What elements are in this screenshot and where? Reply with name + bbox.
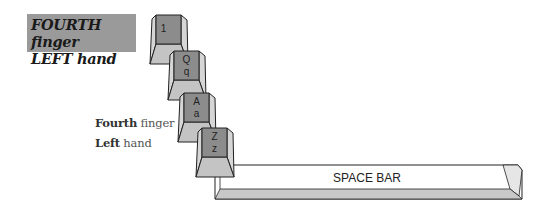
key-label: 1 [161, 23, 167, 34]
space-bar: SPACE BAR [215, 165, 522, 199]
key-lower-label: q [184, 66, 190, 77]
key-upper-label: Q [183, 54, 191, 65]
space-bar-label: SPACE BAR [333, 171, 401, 185]
key-front [196, 157, 234, 177]
key-z: Zz [196, 128, 234, 177]
key-lower-label: a [194, 108, 200, 119]
keyboard-diagram: SPACE BAR 1QqAaZz [0, 0, 533, 214]
space-bar-front [215, 189, 522, 199]
key-stack: 1QqAaZz [150, 15, 234, 177]
key-lower-label: z [212, 143, 217, 154]
key-upper-label: Z [211, 131, 217, 142]
key-upper-label: A [193, 96, 200, 107]
